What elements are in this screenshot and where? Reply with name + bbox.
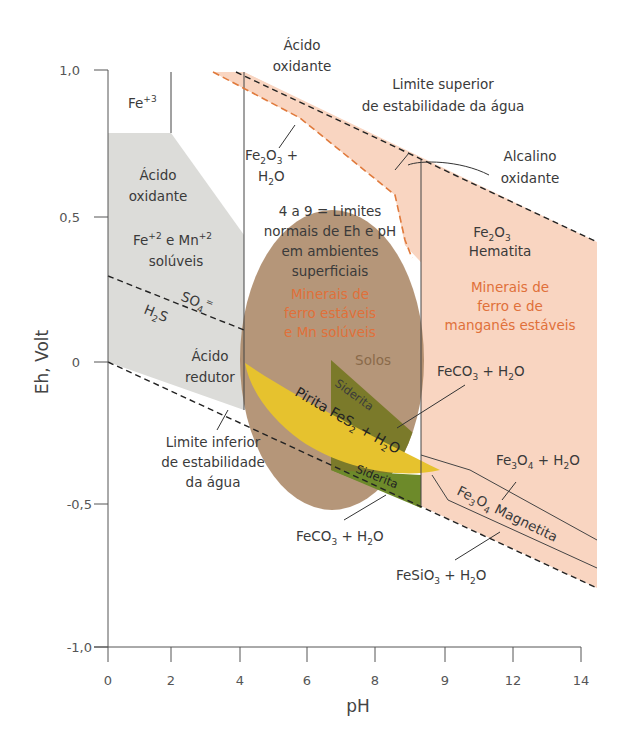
label-soils: Solos <box>355 352 391 368</box>
y-tick-label: 0 <box>72 355 80 370</box>
label-minerals-right: Minerais de <box>471 279 549 295</box>
y-tick-label: 0,5 <box>59 210 80 225</box>
label-upper-limit: Limite superior <box>392 76 494 92</box>
label-fe2o3-h2o: Fe2O3 + <box>245 147 298 166</box>
x-tick-label: 9 <box>441 673 449 688</box>
label-minerals-right: manganês estáveis <box>445 317 576 333</box>
x-tick-label: 14 <box>573 673 590 688</box>
label-soluble: solúveis <box>149 253 204 269</box>
label-feco3-lower: FeCO3 + H2O <box>296 528 384 547</box>
label-normal-limits: em ambientes <box>282 243 379 259</box>
label-acid-oxidant: oxidante <box>129 188 188 204</box>
label-acid-reducer: Ácido <box>192 348 229 364</box>
label-lower-limit: da água <box>186 474 241 490</box>
label-upper-limit: de estabilidade da água <box>362 98 525 114</box>
x-tick-label: 6 <box>303 673 311 688</box>
x-axis-label: pH <box>346 696 370 716</box>
eh-ph-diagram: 1,0 0,5 0 -0,5 -1,0 0 2 4 6 8 9 12 14 pH… <box>0 0 637 752</box>
x-tick-label: 0 <box>104 673 112 688</box>
label-normal-limits: 4 a 9 = Limites <box>279 203 382 219</box>
label-lower-limit: de estabilidade <box>161 454 265 470</box>
x-tick-label: 12 <box>505 673 522 688</box>
y-tick-label: -0,5 <box>67 497 92 512</box>
y-axis-label: Eh, Volt <box>32 329 52 394</box>
label-alkaline: oxidante <box>501 170 560 186</box>
label-minerals-left: e Mn solúveis <box>284 324 376 340</box>
x-tick-label: 8 <box>371 673 379 688</box>
label-normal-limits: superficiais <box>292 263 369 279</box>
x-ticks: 0 2 4 6 8 9 12 14 <box>104 647 589 688</box>
y-tick-label: 1,0 <box>59 63 80 78</box>
y-ticks: 1,0 0,5 0 -0,5 -1,0 <box>59 63 108 655</box>
label-fe3: Fe+3 <box>128 94 157 111</box>
label-alkaline: Alcalino <box>504 148 557 164</box>
y-tick-label: -1,0 <box>67 640 92 655</box>
label-top-acid: Ácido <box>284 37 321 53</box>
label-acid-reducer: redutor <box>185 369 235 385</box>
label-minerals-left: ferro estáveis <box>284 305 376 321</box>
chart-svg: 1,0 0,5 0 -0,5 -1,0 0 2 4 6 8 9 12 14 pH… <box>0 0 637 752</box>
label-normal-limits: normais de Eh e pH <box>264 223 397 239</box>
label-minerals-left: Minerais de <box>291 286 369 302</box>
x-tick-label: 4 <box>236 673 244 688</box>
label-hematite: Hematita <box>469 243 532 259</box>
x-tick-label: 2 <box>167 673 175 688</box>
label-acid-oxidant: Ácido <box>140 167 177 183</box>
label-fesio3: FeSiO3 + H2O <box>396 567 486 586</box>
label-top-acid: oxidante <box>273 58 332 74</box>
label-minerals-right: ferro e de <box>477 298 543 314</box>
label-fe2o3-h2o: H2O <box>258 168 285 187</box>
label-lower-limit: Limite inferior <box>166 434 261 450</box>
